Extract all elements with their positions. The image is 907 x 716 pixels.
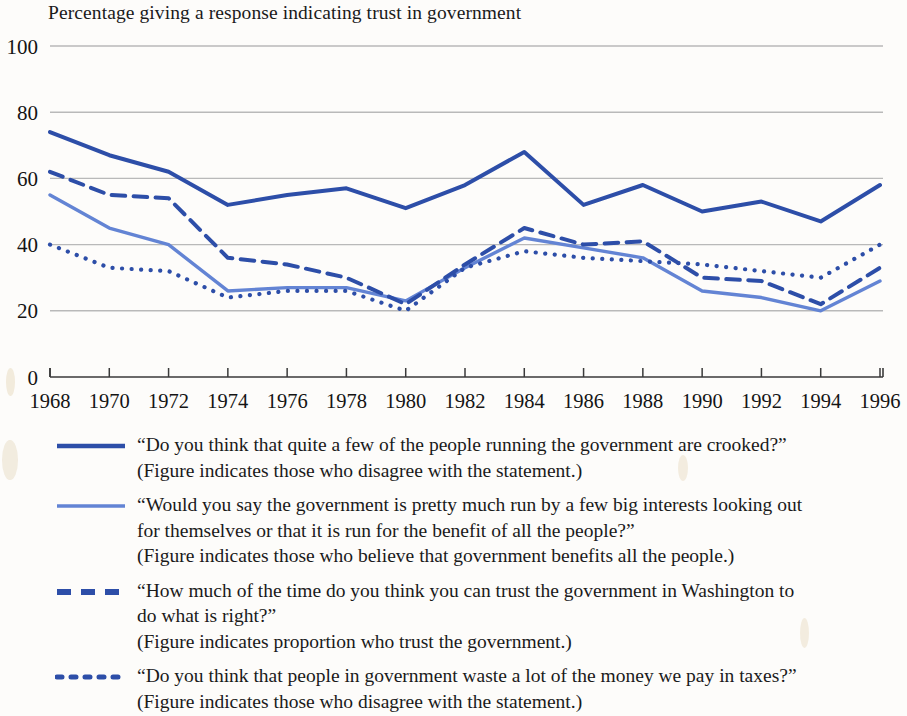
legend-label-line: “Would you say the government is pretty …: [137, 492, 802, 518]
line-chart-svg: 020406080100 196819701972197419761978198…: [0, 0, 907, 430]
legend-entry: “Would you say the government is pretty …: [0, 492, 907, 569]
chart-plot-area: 020406080100 196819701972197419761978198…: [0, 0, 907, 430]
series-line-crooked: [50, 132, 880, 221]
y-axis-tick-labels: 020406080100: [7, 35, 39, 390]
x-axis-tick-label: 1984: [504, 390, 545, 412]
chart-legend: “Do you think that quite a few of the pe…: [0, 432, 907, 716]
legend-label-line: (Figure indicates those who believe that…: [137, 543, 802, 569]
legend-label-line: (Figure indicates those who disagree wit…: [137, 458, 787, 484]
y-axis-tick-label: 80: [17, 101, 38, 125]
series-line-trust-washington: [50, 172, 880, 304]
y-axis-tick-label: 20: [17, 299, 38, 323]
legend-swatch-solid-thin: [55, 492, 127, 516]
legend-label-line: “How much of the time do you think you c…: [137, 578, 794, 604]
x-axis-tick-label: 1988: [622, 390, 663, 412]
legend-label-line: (Figure indicates proportion who trust t…: [137, 629, 794, 655]
x-axis-tick-label: 1974: [207, 390, 248, 412]
legend-label-line: for themselves or that it is run for the…: [137, 518, 802, 544]
y-axis-tick-label: 100: [7, 35, 39, 59]
legend-label-line: “Do you think that people in government …: [137, 663, 797, 689]
legend-swatch-solid-thick: [55, 432, 127, 456]
y-axis-tick-label: 60: [17, 167, 38, 191]
x-axis-tick-label: 1994: [800, 390, 841, 412]
legend-label: “Do you think that people in government …: [137, 663, 797, 714]
y-axis-tick-label: 40: [17, 233, 38, 257]
legend-label-line: (Figure indicates those who disagree wit…: [137, 689, 797, 715]
x-axis-tick-label: 1980: [385, 390, 426, 412]
legend-label: “Would you say the government is pretty …: [137, 492, 802, 569]
x-axis-tick-label: 1982: [445, 390, 486, 412]
gridlines-group: [50, 46, 883, 311]
legend-label: “How much of the time do you think you c…: [137, 578, 794, 655]
x-axis-tick-label: 1986: [563, 390, 604, 412]
legend-label: “Do you think that quite a few of the pe…: [137, 432, 787, 483]
x-axis-tick-label: 1978: [326, 390, 367, 412]
legend-entry: “Do you think that people in government …: [0, 663, 907, 714]
x-axis-tick-label: 1970: [89, 390, 130, 412]
x-axis-tick-label: 1992: [741, 390, 782, 412]
x-axis-tick-label: 1968: [30, 390, 71, 412]
legend-entry: “Do you think that quite a few of the pe…: [0, 432, 907, 483]
data-series-group: [50, 132, 880, 311]
x-axis-tick-label: 1996: [860, 390, 901, 412]
series-line-waste-taxes: [50, 245, 880, 311]
legend-label-line: “Do you think that quite a few of the pe…: [137, 432, 787, 458]
x-axis-tick-label: 1972: [148, 390, 189, 412]
x-axis-tick-labels: 1968197019721974197619781980198219841986…: [30, 390, 901, 412]
axis-group: [50, 368, 883, 377]
x-axis-tick-label: 1976: [267, 390, 308, 412]
legend-entry: “How much of the time do you think you c…: [0, 578, 907, 655]
legend-swatch-dotted: [55, 663, 127, 687]
legend-swatch-dashed: [55, 578, 127, 602]
y-axis-tick-label: 0: [28, 366, 39, 390]
x-axis-tick-label: 1990: [682, 390, 723, 412]
legend-label-line: do what is right?”: [137, 603, 794, 629]
series-line-big-interests: [50, 195, 880, 311]
